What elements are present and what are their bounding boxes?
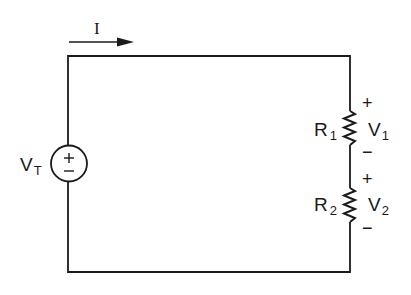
source-label-main: V	[20, 154, 33, 175]
circuit-wires	[68, 56, 350, 272]
r1-minus-sign: −	[362, 142, 373, 162]
r2-plus-sign: +	[362, 169, 373, 189]
r2-minus-sign: −	[362, 218, 373, 238]
r2-label-sub: 2	[330, 203, 337, 218]
resistor-r2-icon	[344, 188, 355, 222]
series-circuit-diagram: I VT R1 + V1 − R2 + V2 −	[0, 0, 411, 295]
v1-label-main: V	[368, 119, 381, 140]
left-top-right-wire	[68, 56, 350, 145]
r1-plus-sign: +	[362, 93, 373, 113]
resistor-r1-icon	[344, 111, 355, 145]
r1-label-sub: 1	[330, 128, 337, 143]
v2-label: V2	[368, 194, 389, 218]
current-arrow-icon	[69, 38, 134, 47]
bottom-wire	[68, 182, 350, 272]
current-label: I	[94, 19, 100, 38]
r2-label-main: R	[314, 194, 328, 215]
source-label-sub: T	[34, 163, 42, 178]
source-label: VT	[20, 154, 42, 178]
voltage-source-icon	[51, 146, 87, 182]
v1-label: V1	[368, 119, 389, 143]
v2-label-main: V	[368, 194, 381, 215]
r1-label-main: R	[314, 119, 328, 140]
r1-label: R1	[314, 119, 337, 143]
v1-label-sub: 1	[382, 128, 389, 143]
v2-label-sub: 2	[382, 203, 389, 218]
r2-label: R2	[314, 194, 337, 218]
